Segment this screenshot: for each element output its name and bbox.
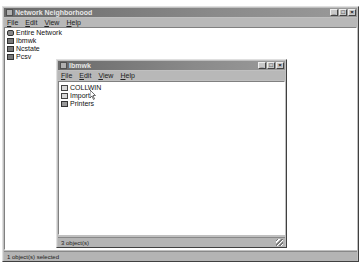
outer-menu-bar: File Edit View Help — [4, 18, 357, 27]
ibmwk-computer-icon — [60, 62, 67, 69]
item-label: Pcsv — [16, 53, 31, 61]
outer-menu-file[interactable]: File — [7, 18, 18, 27]
inner-menu-help[interactable]: Help — [120, 71, 134, 80]
outer-menu-view[interactable]: View — [44, 18, 59, 27]
outer-menu-edit[interactable]: Edit — [25, 18, 37, 27]
inner-window-title: Ibmwk — [69, 62, 91, 69]
item-label: Ibmwk — [16, 37, 36, 45]
outer-status-bar: 1 object(s) selected — [4, 251, 357, 261]
list-item-ibmwk[interactable]: Ibmwk — [7, 37, 354, 45]
outer-minimize-button[interactable]: _ — [330, 9, 338, 16]
inner-status-bar: 3 object(s) — [58, 237, 285, 247]
network-globe-icon — [7, 30, 14, 36]
outer-window-title: Network Neighborhood — [15, 9, 92, 16]
list-item-printers[interactable]: Printers — [61, 100, 282, 108]
inner-maximize-button[interactable]: □ — [267, 62, 275, 69]
inner-close-button[interactable]: × — [276, 62, 284, 69]
printers-folder-icon — [61, 101, 68, 107]
resize-grip-icon[interactable] — [276, 239, 283, 246]
ibmwk-window: Ibmwk _ □ × File Edit View Help COLLWIN … — [56, 59, 287, 248]
inner-menu-view[interactable]: View — [98, 71, 113, 80]
inner-menu-bar: File Edit View Help — [58, 71, 285, 80]
outer-maximize-button[interactable]: □ — [339, 9, 347, 16]
inner-content-area: COLLWIN Import Printers — [58, 81, 285, 235]
inner-menu-edit[interactable]: Edit — [79, 71, 91, 80]
shared-folder-icon — [61, 85, 68, 91]
outer-title-bar[interactable]: Network Neighborhood _ □ × — [4, 8, 357, 17]
outer-status-text: 1 object(s) selected — [7, 254, 59, 260]
item-label: Printers — [70, 100, 94, 108]
outer-close-button[interactable]: × — [348, 9, 356, 16]
item-label: Entire Network — [16, 29, 62, 37]
mouse-pointer-icon — [90, 90, 96, 100]
shared-folder-icon — [61, 93, 68, 99]
computer-icon — [7, 54, 14, 60]
list-item-ncstate[interactable]: Ncstate — [7, 45, 354, 53]
inner-minimize-button[interactable]: _ — [258, 62, 266, 69]
inner-status-text: 3 object(s) — [61, 240, 89, 246]
inner-title-bar[interactable]: Ibmwk _ □ × — [58, 61, 285, 70]
computer-icon — [7, 46, 14, 52]
item-label: Import — [70, 92, 90, 100]
network-neighborhood-icon — [6, 9, 13, 16]
computer-icon — [7, 38, 14, 44]
list-item-entire-network[interactable]: Entire Network — [7, 29, 354, 37]
inner-menu-file[interactable]: File — [61, 71, 72, 80]
item-label: COLLWIN — [70, 84, 101, 92]
item-label: Ncstate — [16, 45, 40, 53]
outer-menu-help[interactable]: Help — [66, 18, 80, 27]
